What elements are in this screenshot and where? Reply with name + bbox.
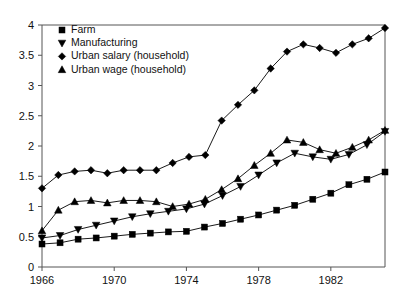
data-point-marker [111, 233, 117, 239]
data-point-marker [183, 228, 189, 234]
data-point-marker [147, 230, 153, 236]
legend-label: Manufacturing [71, 36, 138, 48]
data-point-marker [274, 207, 280, 213]
legend-label: Urban wage (household) [71, 63, 186, 75]
legend-item-urban-wage-household: Urban wage (household) [58, 63, 186, 75]
data-point-marker [165, 229, 171, 235]
legend-label: Urban salary (household) [71, 49, 189, 61]
y-tick-label: 2.5 [19, 110, 34, 122]
legend-marker-square-icon [59, 27, 65, 33]
legend-label: Farm [71, 23, 96, 35]
legend-item-urban-salary-household: Urban salary (household) [58, 49, 189, 61]
y-tick-label: 0.5 [19, 231, 34, 243]
data-point-marker [256, 212, 262, 218]
data-point-marker [310, 196, 316, 202]
y-tick-label: 1 [28, 201, 34, 213]
data-point-marker [292, 202, 298, 208]
y-tick-label: 4 [28, 19, 34, 31]
data-point-marker [382, 169, 388, 175]
y-tick-label: 2 [28, 140, 34, 152]
y-tick-label: 3 [28, 80, 34, 92]
data-point-marker [238, 216, 244, 222]
x-tick-label: 1982 [319, 274, 343, 286]
data-point-marker [93, 235, 99, 241]
y-tick-label: 3.5 [19, 49, 34, 61]
legend-item-manufacturing: Manufacturing [58, 36, 137, 48]
data-point-marker [75, 236, 81, 242]
chart-canvas: 00.511.522.533.54 19661970197419781982 F… [0, 0, 403, 296]
x-tick-label: 1970 [102, 274, 126, 286]
data-point-marker [346, 182, 352, 188]
data-point-marker [328, 190, 334, 196]
x-tick-label: 1974 [174, 274, 198, 286]
data-point-marker [220, 220, 226, 226]
x-tick-label: 1966 [30, 274, 54, 286]
data-point-marker [201, 224, 207, 230]
y-tick-label: 1.5 [19, 170, 34, 182]
data-point-marker [364, 176, 370, 182]
x-tick-label: 1978 [246, 274, 270, 286]
data-point-marker [129, 231, 135, 237]
data-point-marker [57, 240, 63, 246]
line-chart: 00.511.522.533.54 19661970197419781982 F… [0, 0, 403, 296]
y-tick-label: 0 [28, 261, 34, 273]
